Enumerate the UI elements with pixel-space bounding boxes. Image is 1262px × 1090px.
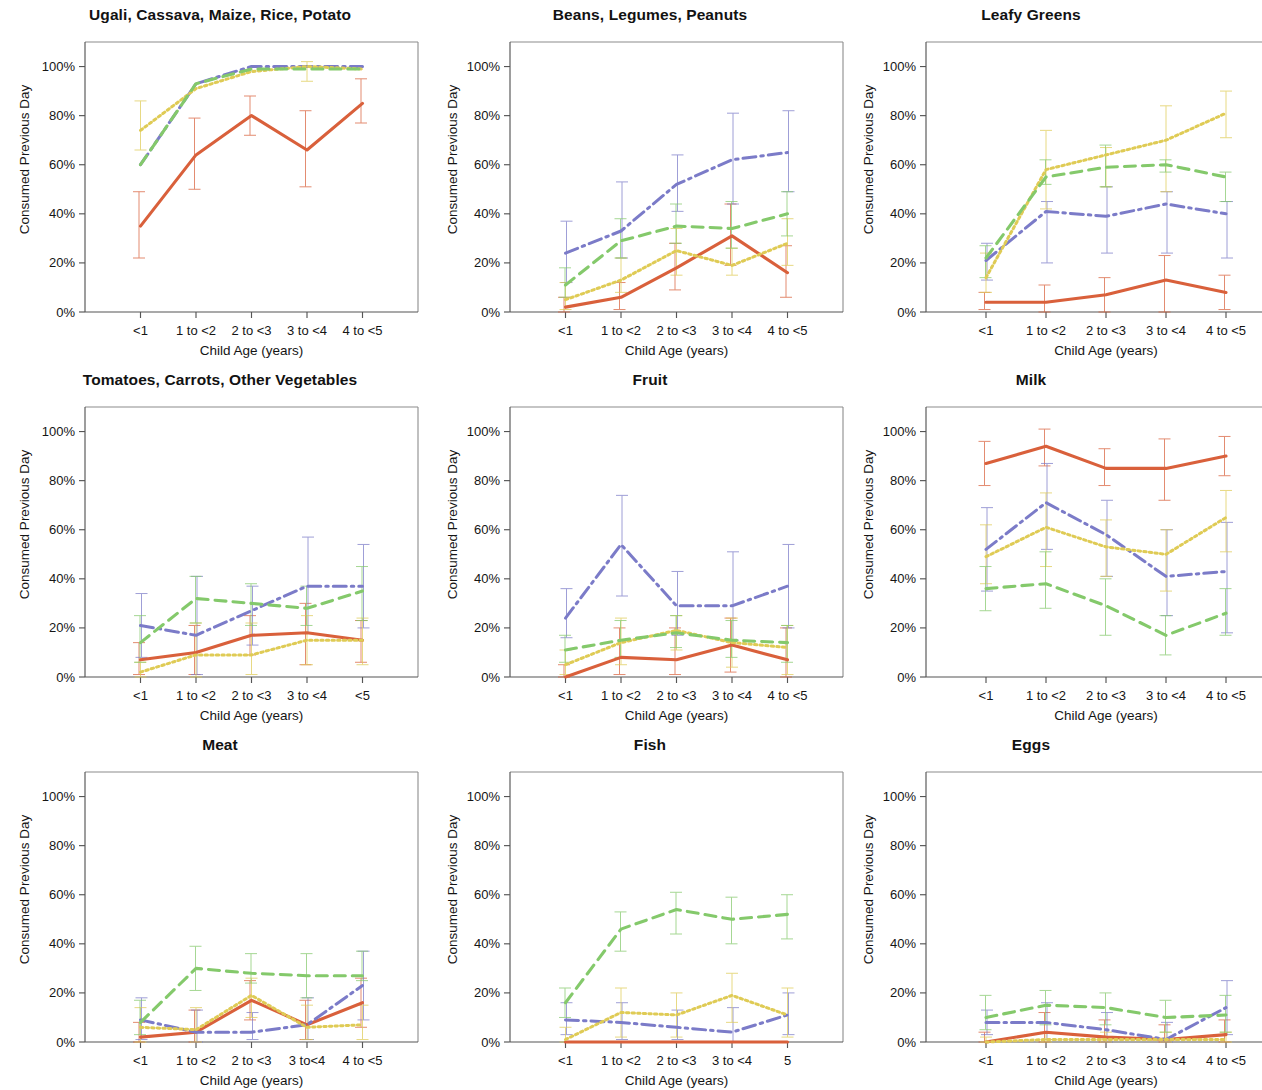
y-tick-label: 60% <box>49 887 75 902</box>
x-tick-label: 1 to <2 <box>1026 1053 1066 1068</box>
x-tick-label: <1 <box>133 323 148 338</box>
error-bar <box>670 204 682 243</box>
plot-area: 0%20%40%60%80%100%<11 to <22 to <33 to <… <box>440 365 860 730</box>
x-axis-title: Child Age (years) <box>1054 1073 1158 1088</box>
y-tick-label: 40% <box>474 571 500 586</box>
error-bar <box>726 202 738 249</box>
y-tick-label: 100% <box>883 59 917 74</box>
y-tick-label: 100% <box>467 789 501 804</box>
y-tick-label: 20% <box>890 985 916 1000</box>
x-tick-label: 3 to <4 <box>712 688 752 703</box>
plot-svg: 0%20%40%60%80%100%<11 to <22 to <33 to <… <box>0 365 440 730</box>
plot-svg: 0%20%40%60%80%100%<11 to <22 to <33 to <… <box>860 0 1262 365</box>
error-bar <box>783 111 795 192</box>
plot-area: 0%20%40%60%80%100%<11 to <22 to <33 to<4… <box>0 730 440 1090</box>
chart-panel: FruitConsumed Previous Day0%20%40%60%80%… <box>440 365 860 730</box>
y-tick-label: 60% <box>890 157 916 172</box>
y-tick-label: 80% <box>49 108 75 123</box>
error-bar <box>616 182 628 258</box>
x-tick-label: 4 to <5 <box>1206 323 1246 338</box>
y-tick-label: 0% <box>897 1035 916 1050</box>
x-axis-title: Child Age (years) <box>200 708 304 723</box>
y-tick-label: 20% <box>474 255 500 270</box>
y-tick-label: 80% <box>474 108 500 123</box>
y-tick-label: 0% <box>56 1035 75 1050</box>
error-bar <box>301 62 313 82</box>
error-bar <box>357 1005 369 1039</box>
error-bar <box>725 204 737 265</box>
x-tick-label: 1 to <2 <box>176 1053 216 1068</box>
x-tick-label: 1 to <2 <box>176 323 216 338</box>
x-tick-label: <1 <box>979 688 994 703</box>
x-tick-label: 4 to <5 <box>767 688 807 703</box>
error-bar <box>1039 1013 1051 1042</box>
x-tick-label: 1 to <2 <box>1026 688 1066 703</box>
x-tick-label: 2 to <3 <box>1086 1053 1126 1068</box>
y-tick-label: 60% <box>49 157 75 172</box>
y-tick-label: 100% <box>467 424 501 439</box>
chart-panel: Beans, Legumes, PeanutsConsumed Previous… <box>440 0 860 365</box>
chart-panel: MeatConsumed Previous Day0%20%40%60%80%1… <box>0 730 440 1090</box>
x-axis-title: Child Age (years) <box>625 708 729 723</box>
error-bar <box>246 623 258 675</box>
chart-panel: EggsConsumed Previous Day0%20%40%60%80%1… <box>860 730 1262 1090</box>
plot-area: 0%20%40%60%80%100%<11 to <22 to <33 to <… <box>0 365 440 730</box>
x-tick-label: 2 to <3 <box>231 1053 271 1068</box>
error-bar <box>980 995 992 1029</box>
x-tick-label: 5 <box>784 1053 791 1068</box>
plot-svg: 0%20%40%60%80%100%<11 to <22 to <33 to <… <box>440 365 860 730</box>
error-bar <box>1221 522 1233 632</box>
plot-svg: 0%20%40%60%80%100%<11 to <22 to <33 to <… <box>860 730 1262 1090</box>
x-tick-label: 4 to <5 <box>1206 1053 1246 1068</box>
y-tick-label: 60% <box>474 522 500 537</box>
x-tick-label: 4 to <5 <box>342 323 382 338</box>
y-tick-label: 0% <box>897 670 916 685</box>
x-tick-label: <1 <box>979 323 994 338</box>
chart-panel: FishConsumed Previous Day0%20%40%60%80%1… <box>440 730 860 1090</box>
x-tick-label: 4 to <5 <box>342 1053 382 1068</box>
x-axis-title: Child Age (years) <box>1054 343 1158 358</box>
y-tick-label: 100% <box>42 424 76 439</box>
error-bar <box>727 1008 739 1042</box>
x-tick-label: 3 to<4 <box>289 1053 326 1068</box>
series-line-orange <box>986 280 1226 302</box>
y-tick-label: 60% <box>474 157 500 172</box>
error-bar <box>780 628 792 677</box>
error-bar <box>614 628 626 675</box>
plot-svg: 0%20%40%60%80%100%<11 to <22 to <33 to <… <box>860 365 1262 730</box>
x-tick-label: 4 to <5 <box>767 323 807 338</box>
error-bar <box>726 248 738 275</box>
x-tick-label: <1 <box>558 1053 573 1068</box>
x-tick-label: 1 to <2 <box>601 688 641 703</box>
y-tick-label: 20% <box>890 255 916 270</box>
x-tick-label: 3 to <4 <box>287 688 327 703</box>
error-bar <box>247 1013 259 1040</box>
small-multiples-figure: Ugali, Cassava, Maize, Rice, PotatoConsu… <box>0 0 1262 1090</box>
chart-panel: Ugali, Cassava, Maize, Rice, PotatoConsu… <box>0 0 440 365</box>
plot-svg: 0%20%40%60%80%100%<11 to <22 to <33 to <… <box>440 730 860 1090</box>
y-tick-label: 40% <box>49 571 75 586</box>
y-tick-label: 80% <box>49 838 75 853</box>
error-bar <box>1101 187 1113 253</box>
plot-svg: 0%20%40%60%80%100%<11 to <22 to <33 to <… <box>0 0 440 365</box>
plot-area: 0%20%40%60%80%100%<11 to <22 to <33 to <… <box>860 0 1262 365</box>
y-tick-label: 40% <box>890 206 916 221</box>
x-tick-label: 2 to <3 <box>1086 688 1126 703</box>
y-tick-label: 0% <box>481 1035 500 1050</box>
y-tick-label: 100% <box>467 59 501 74</box>
y-tick-label: 40% <box>890 936 916 951</box>
x-tick-label: 3 to <4 <box>712 1053 752 1068</box>
y-tick-label: 0% <box>56 305 75 320</box>
y-tick-label: 40% <box>49 206 75 221</box>
x-tick-label: <5 <box>355 688 370 703</box>
y-tick-label: 60% <box>49 522 75 537</box>
y-tick-label: 0% <box>481 305 500 320</box>
y-tick-label: 20% <box>49 620 75 635</box>
x-axis-title: Child Age (years) <box>625 343 729 358</box>
error-bar <box>302 998 314 1040</box>
error-bar <box>670 892 682 934</box>
x-tick-label: <1 <box>979 1053 994 1068</box>
y-tick-label: 80% <box>474 838 500 853</box>
y-tick-label: 80% <box>890 108 916 123</box>
y-tick-label: 80% <box>49 473 75 488</box>
